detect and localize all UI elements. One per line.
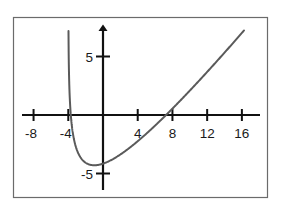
function-plot: -8-4481216 5-5 xyxy=(0,0,283,200)
x-tick-label: 12 xyxy=(200,126,215,141)
x-tick-label: -4 xyxy=(60,126,72,141)
y-tick-label: 5 xyxy=(85,50,93,65)
plot-frame xyxy=(14,18,268,198)
x-ticks: -8-4481216 xyxy=(25,109,249,141)
y-tick-label: -5 xyxy=(81,167,93,182)
x-tick-label: -8 xyxy=(25,126,37,141)
y-axis-arrow-icon xyxy=(99,25,108,32)
x-tick-label: 16 xyxy=(234,126,249,141)
function-curve xyxy=(68,30,244,165)
x-tick-label: 8 xyxy=(169,126,177,141)
